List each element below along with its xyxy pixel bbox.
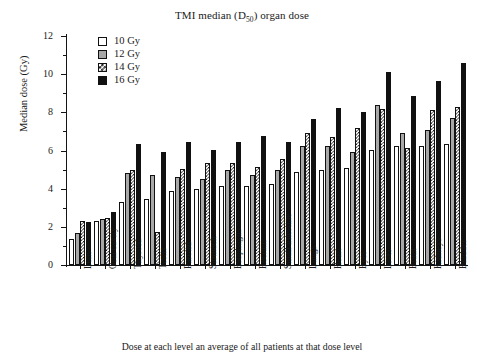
bar-kidneys-12Gy	[425, 130, 430, 265]
x-label-thyroid: Thyroid	[134, 239, 143, 269]
x-label-esophagus: Esophagus	[234, 229, 243, 269]
x-label-rectum: Rectum	[259, 240, 268, 269]
bar-oral-cavity-12Gy	[100, 219, 105, 265]
bar-small-intestine-10Gy	[269, 184, 274, 265]
x-label-stomach: Stomach	[209, 236, 218, 269]
bar-bladder-12Gy	[450, 118, 455, 265]
legend-item-14Gy[interactable]: 14 Gy	[98, 61, 140, 74]
x-tick-small-intestine	[280, 265, 281, 269]
legend: 10 Gy12 Gy14 Gy16 Gy	[98, 35, 140, 87]
bar-lungs-10Gy	[294, 172, 299, 266]
bar-small-intestine-12Gy	[275, 170, 280, 265]
x-tick-liver	[380, 265, 381, 269]
bar-liver-14Gy	[380, 109, 385, 265]
bar-liver-12Gy	[375, 105, 380, 265]
y-tick-label-2: 2	[48, 222, 53, 232]
bar-lens-10Gy	[69, 239, 74, 265]
x-tick-stomach	[205, 265, 206, 269]
y-tick-4: 4	[61, 189, 66, 190]
bar-lungs-16Gy	[311, 119, 316, 265]
x-label-testis: Testis	[159, 247, 168, 269]
bar-bladder-10Gy	[444, 144, 449, 265]
bar-group-brain	[394, 36, 416, 265]
bar-brain-12Gy	[400, 133, 405, 265]
bar-group-liver	[369, 36, 391, 265]
y-tick-label-4: 4	[48, 184, 53, 194]
x-tick-lungs	[305, 265, 306, 269]
bar-esophagus-10Gy	[219, 186, 224, 265]
legend-swatch-10Gy	[98, 37, 107, 46]
bar-eyes-10Gy	[344, 168, 349, 265]
x-tick-parotid	[180, 265, 181, 269]
bar-heart-10Gy	[319, 170, 324, 265]
x-label-brain: Brain	[409, 248, 418, 269]
chart-caption: Dose at each level an average of all pat…	[0, 341, 484, 352]
x-label-eyes: Eyes	[359, 251, 368, 269]
bar-heart-12Gy	[325, 146, 330, 265]
bar-group-parotid	[169, 36, 191, 265]
y-tick-0: 0	[61, 265, 66, 266]
legend-item-10Gy[interactable]: 10 Gy	[98, 35, 140, 48]
x-label-oral-cavity: Oral cavity	[109, 227, 118, 269]
bar-group-heart	[319, 36, 341, 265]
x-tick-bladder	[455, 265, 456, 269]
bar-eyes-12Gy	[350, 152, 355, 265]
x-tick-kidneys	[430, 265, 431, 269]
bar-stomach-10Gy	[194, 189, 199, 265]
bar-parotid-12Gy	[175, 177, 180, 265]
y-tick-12: 12	[61, 36, 66, 37]
bar-stomach-12Gy	[200, 179, 205, 265]
y-minor-tick-1	[63, 246, 66, 247]
x-label-bladder: Bladder	[459, 240, 468, 269]
legend-label-14Gy: 14 Gy	[114, 62, 140, 73]
bar-oral-cavity-10Gy	[94, 221, 99, 265]
x-tick-brain	[405, 265, 406, 269]
y-axis-title: Median dose (Gy)	[18, 56, 29, 132]
bar-esophagus-12Gy	[225, 170, 230, 265]
x-label-lens: Lens	[84, 251, 93, 269]
x-label-lungs: Lungs	[309, 246, 318, 269]
bar-liver-16Gy	[386, 72, 391, 265]
y-minor-tick-3	[63, 208, 66, 209]
bar-thyroid-10Gy	[119, 202, 124, 265]
chart-title-main: TMI median (D	[175, 9, 246, 21]
bar-heart-14Gy	[330, 137, 335, 265]
bar-group-rectum	[244, 36, 266, 265]
x-label-kidneys: Kidneys	[434, 238, 443, 269]
y-tick-label-8: 8	[48, 107, 53, 117]
bar-eyes-14Gy	[355, 128, 360, 265]
y-tick-label-0: 0	[48, 260, 53, 270]
bar-eyes-16Gy	[361, 112, 366, 265]
bar-bladder-16Gy	[461, 63, 466, 265]
y-minor-tick-7	[63, 131, 66, 132]
legend-swatch-16Gy	[98, 76, 107, 85]
y-tick-label-12: 12	[43, 31, 53, 41]
x-tick-eyes	[355, 265, 356, 269]
bar-rectum-10Gy	[244, 186, 249, 265]
bar-heart-16Gy	[336, 108, 341, 265]
bar-group-stomach	[194, 36, 216, 265]
bar-parotid-10Gy	[169, 191, 174, 265]
y-tick-2: 2	[61, 227, 66, 228]
chart-title-subscript: 50	[246, 15, 254, 24]
legend-swatch-12Gy	[98, 50, 107, 59]
chart-page: TMI median (D50) organ dose Median dose …	[0, 0, 484, 359]
y-minor-tick-11	[63, 55, 66, 56]
y-tick-8: 8	[61, 112, 66, 113]
legend-item-12Gy[interactable]: 12 Gy	[98, 48, 140, 61]
x-label-small-intestine: Small intestine	[284, 213, 293, 269]
legend-item-16Gy[interactable]: 16 Gy	[98, 74, 140, 87]
legend-label-12Gy: 12 Gy	[114, 49, 140, 60]
bar-group-lungs	[294, 36, 316, 265]
legend-swatch-14Gy	[98, 63, 107, 72]
bar-group-bladder	[444, 36, 466, 265]
y-tick-10: 10	[61, 74, 66, 75]
legend-label-16Gy: 16 Gy	[114, 75, 140, 86]
bar-lungs-12Gy	[300, 146, 305, 265]
bar-testis-10Gy	[144, 199, 149, 265]
bar-brain-16Gy	[411, 96, 416, 265]
x-tick-rectum	[255, 265, 256, 269]
bar-group-kidneys	[419, 36, 441, 265]
x-tick-oral-cavity	[105, 265, 106, 269]
bar-group-lens	[69, 36, 91, 265]
